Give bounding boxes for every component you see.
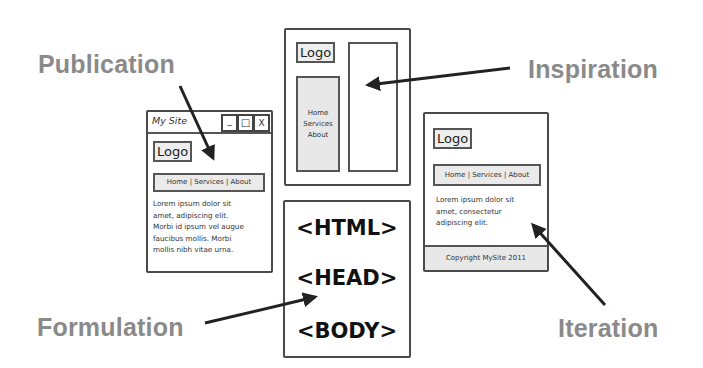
arrow-publication <box>180 86 213 158</box>
arrow-formulation <box>205 297 315 323</box>
arrow-iteration <box>533 225 605 305</box>
arrows-layer <box>0 0 703 368</box>
arrow-inspiration <box>368 68 510 85</box>
